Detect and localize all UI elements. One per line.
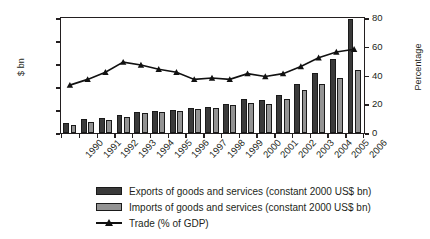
y-axis-right-title: Percentage [413,31,423,103]
y-tick-label-right: 60 [372,42,406,52]
x-tick-label: 2003 [314,137,336,160]
x-tick-label: 1998 [225,137,247,160]
x-axis-labels: 1990199119921993199419951996199719981999… [61,137,363,177]
x-tick-label: 2001 [278,137,300,160]
x-tick-label: 1992 [118,137,140,160]
chart-figure: $ bn Percentage 02004006008001000 020406… [0,0,430,239]
x-tick-label: 2006 [367,137,389,160]
x-tick-label: 1999 [242,137,264,160]
y-tick-mark-right [365,47,369,49]
legend-swatch-trade-line-icon [96,218,122,228]
x-tick-label: 1996 [189,137,211,160]
x-tick-label: 1993 [136,137,158,160]
legend-swatch-imports-icon [96,203,122,211]
x-tick-label: 2005 [349,137,371,160]
x-tick-label: 1997 [207,137,229,160]
legend-label-imports: Imports of goods and services (constant … [129,202,371,213]
y-axis-left-title: $ bn [16,37,26,97]
y-tick-mark-right [365,133,369,135]
y-tick-mark-right [365,18,369,20]
legend-item-imports: Imports of goods and services (constant … [96,199,396,215]
x-tick-label: 2004 [331,137,353,160]
y-tick-label-right: 40 [372,71,406,81]
x-tick-label: 2002 [296,137,318,160]
y-tick-label-right: 0 [372,128,406,138]
x-tick-label: 2000 [260,137,282,160]
y-tick-mark-right [365,104,369,106]
y-tick-label-right: 80 [372,13,406,23]
legend-swatch-exports-icon [96,187,122,195]
legend-item-exports: Exports of goods and services (constant … [96,183,396,199]
trade-line-marker [102,69,108,75]
legend-label-exports: Exports of goods and services (constant … [129,186,371,197]
line-series-layer [61,18,363,134]
y-tick-label-right: 20 [372,99,406,109]
y-tick-mark-right [365,76,369,78]
legend-label-trade: Trade (% of GDP) [129,218,209,229]
x-tick-label: 1994 [154,137,176,160]
x-tick-label: 1991 [100,137,122,160]
chart-legend: Exports of goods and services (constant … [96,183,396,231]
x-tick-label: 1990 [83,137,105,160]
legend-item-trade: Trade (% of GDP) [96,215,396,231]
